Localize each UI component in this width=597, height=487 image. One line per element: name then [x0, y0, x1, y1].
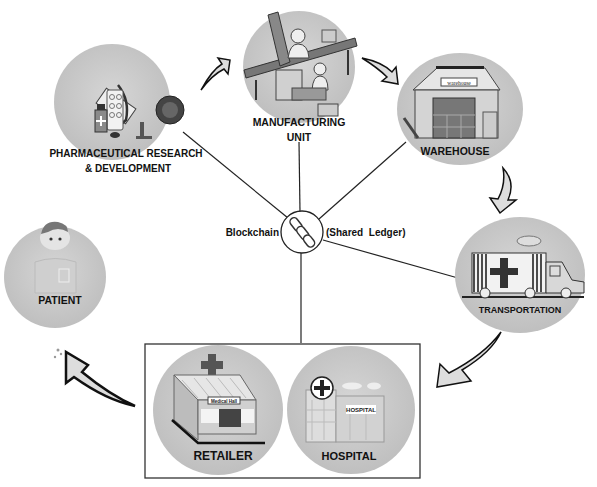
warehouse-label: WAREHOUSE [421, 145, 490, 157]
node-transportation: TRANSPORTATION [455, 217, 585, 333]
hub-label-shared-ledger: (Shared Ledger) [326, 227, 405, 238]
connector-pharma [183, 132, 288, 218]
supply-chain-diagram: PHARMACEUTICAL RESEARCH & DEVELOPMENT MA… [0, 0, 597, 487]
arrow-warehouse-to-transportation [490, 168, 516, 213]
connector-transportation [323, 240, 458, 278]
transportation-label: TRANSPORTATION [479, 305, 562, 315]
node-retailer: Medical Hall RETAILER [153, 345, 283, 475]
connector-warehouse [319, 142, 406, 219]
manufacturing-label-line1: MANUFACTURING [253, 116, 346, 128]
hub-label-blockchain: Blockchain [226, 227, 279, 238]
connector-manufacturing [299, 142, 300, 212]
patient-label: PATIENT [38, 294, 82, 306]
node-patient: PATIENT [4, 222, 106, 328]
warehouse-sign: warehouse [447, 80, 471, 86]
arrow-manufacturing-to-warehouse [362, 58, 398, 84]
hospital-building-icon: HOSPITAL [306, 377, 384, 442]
blockchain-hub: Blockchain (Shared Ledger) [226, 211, 406, 253]
manufacturing-label-line2: UNIT [287, 131, 312, 143]
hospital-label: HOSPITAL [322, 450, 377, 462]
points-of-care-box: Medical Hall RETAILER HOSPITAL HOSPITAL [145, 344, 420, 478]
arrow-transportation-to-box [437, 332, 501, 387]
node-hospital: HOSPITAL HOSPITAL [287, 346, 415, 474]
node-manufacturing: MANUFACTURING UNIT [243, 11, 357, 143]
hospital-sign: HOSPITAL [346, 407, 376, 413]
pharma-label-line1: PHARMACEUTICAL RESEARCH [49, 148, 202, 159]
node-pharma: PHARMACEUTICAL RESEARCH & DEVELOPMENT [49, 44, 202, 174]
arrow-pharma-to-manufacturing [201, 58, 230, 90]
retailer-sign: Medical Hall [211, 399, 237, 404]
node-warehouse: warehouse WAREHOUSE [397, 53, 523, 165]
arrow-box-to-patient [54, 349, 135, 407]
pharma-label-line2: & DEVELOPMENT [85, 163, 171, 174]
retailer-label: RETAILER [193, 449, 252, 463]
